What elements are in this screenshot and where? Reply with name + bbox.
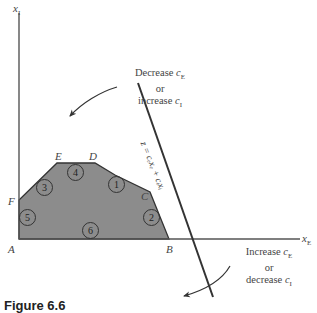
vertex-b: B	[166, 244, 173, 255]
upper-annotation-line1: Decrease cE	[122, 67, 198, 83]
lower-annotation-line1: Increase cE	[231, 246, 307, 262]
vertex-c: C	[141, 191, 148, 202]
figure-caption: Figure 6.6	[4, 298, 65, 313]
constraint-3-marker: 3	[36, 179, 53, 196]
upper-annotation: Decrease cE or increase cI	[122, 67, 198, 111]
lower-annotation-line3: decrease cI	[231, 274, 307, 290]
objective-line	[138, 83, 213, 297]
lower-annotation: Increase cE or decrease cI	[231, 246, 307, 290]
constraint-5-marker: 5	[19, 209, 36, 226]
vertex-f: F	[8, 196, 15, 207]
lower-annotation-line2: or	[231, 262, 307, 274]
constraint-2-marker: 2	[143, 209, 160, 226]
upper-rotation-arrow	[70, 87, 117, 116]
vertex-d: D	[89, 151, 97, 162]
x-axis-sub: E	[307, 239, 311, 247]
constraint-6-marker: 6	[82, 222, 99, 239]
vertex-a: A	[8, 244, 15, 255]
vertex-e: E	[55, 151, 62, 162]
constraint-4-marker: 4	[67, 164, 84, 181]
y-axis-sub: I	[18, 9, 20, 17]
y-axis-label: xI	[13, 3, 20, 17]
constraint-1-marker: 1	[108, 176, 125, 193]
upper-annotation-line2: or	[122, 83, 198, 95]
upper-annotation-line3: increase cI	[122, 95, 198, 111]
